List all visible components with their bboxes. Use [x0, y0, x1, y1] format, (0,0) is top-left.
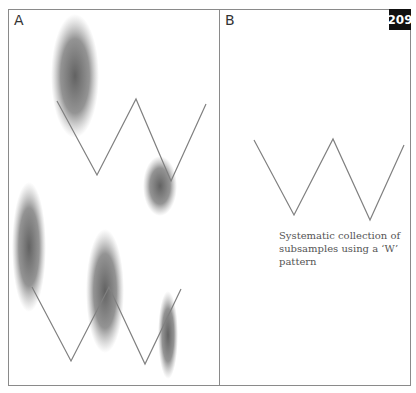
- diagram-graphics: [0, 0, 416, 393]
- w-pattern-b: [254, 139, 404, 220]
- contamination-hotspots: [12, 14, 178, 379]
- panel-b-caption: Systematic collection of subsamples usin…: [279, 229, 409, 268]
